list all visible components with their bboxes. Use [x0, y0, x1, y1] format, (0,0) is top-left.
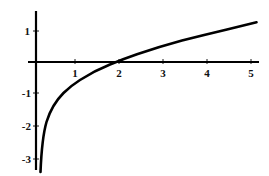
log-curve-plot: 1 2 3 4 5 1 -1 -2 -3 [0, 0, 269, 176]
y-tick-label-neg3: -3 [22, 153, 32, 165]
x-tick-label-2: 2 [116, 67, 122, 79]
x-tick-label-4: 4 [204, 67, 210, 79]
y-tick-label-neg1: -1 [22, 87, 31, 99]
x-tick-label-3: 3 [160, 67, 166, 79]
y-tick-label-neg2: -2 [22, 120, 32, 132]
chart-figure: 1 2 3 4 5 1 -1 -2 -3 [0, 0, 269, 176]
x-tick-label-5: 5 [248, 67, 254, 79]
y-tick-label-1: 1 [25, 25, 31, 37]
plot-background [0, 0, 269, 176]
x-tick-label-1: 1 [72, 67, 78, 79]
